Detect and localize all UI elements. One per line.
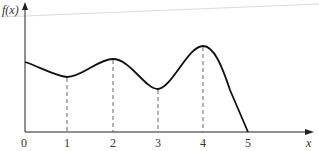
function-plot <box>0 0 319 151</box>
tick-label-4: 4 <box>200 137 206 149</box>
x-axis-label: x <box>306 137 311 149</box>
faint-line <box>0 4 319 17</box>
dashed-guides <box>67 47 203 132</box>
tick-label-2: 2 <box>110 137 116 149</box>
tick-label-0: 0 <box>21 137 27 149</box>
function-curve <box>25 46 248 132</box>
y-axis-arrow-icon <box>22 2 28 10</box>
tick-label-1: 1 <box>64 137 70 149</box>
tick-label-5: 5 <box>245 137 251 149</box>
x-axis-arrow-icon <box>305 129 314 135</box>
y-axis-label: f(x) <box>2 4 19 16</box>
tick-label-3: 3 <box>155 137 161 149</box>
